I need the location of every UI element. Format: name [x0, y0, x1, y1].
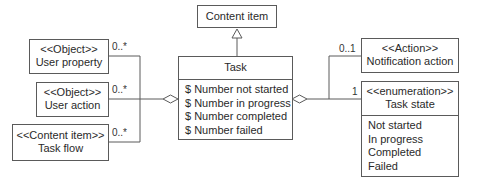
aggregation-diamond-right-icon: [292, 95, 307, 103]
class-content-item: Content item: [197, 5, 277, 28]
class-name: Content item: [198, 6, 276, 27]
stereotype: <<Object>>: [30, 43, 108, 56]
attribute: $ Number not started: [185, 83, 292, 97]
class-notification-action: <<Action>> Notification action: [361, 38, 459, 73]
multiplicity-user-action: 0..*: [112, 84, 127, 95]
multiplicity-task-state: 1: [352, 86, 358, 97]
stereotype: <<Content item>>: [13, 129, 108, 142]
class-name: Notification action: [362, 55, 458, 68]
multiplicity-user-property: 0..*: [112, 41, 127, 52]
aggregation-diamond-left-icon: [163, 95, 178, 103]
enum-value: Completed: [368, 146, 458, 160]
class-task: Task $ Number not started $ Number in pr…: [178, 56, 293, 140]
class-name: Task state: [362, 98, 458, 111]
stereotype: <<enumeration>>: [362, 85, 458, 98]
multiplicity-notification-action: 0..1: [339, 43, 356, 54]
class-name: User property: [30, 56, 108, 69]
generalization-arrow-icon: [232, 29, 242, 38]
class-name: User action: [37, 99, 108, 112]
class-task-state: <<enumeration>> Task state Not started I…: [361, 81, 459, 177]
stereotype: <<Object>>: [37, 86, 108, 99]
class-task-flow: <<Content item>> Task flow: [12, 124, 109, 161]
enum-value: In progress: [368, 133, 458, 147]
enum-value: Failed: [368, 160, 458, 174]
attribute: $ Number completed: [185, 110, 292, 124]
enum-value: Not started: [368, 119, 458, 133]
attribute: $ Number failed: [185, 124, 292, 138]
class-name: Task: [179, 57, 292, 79]
class-name: Task flow: [13, 142, 108, 155]
attribute: $ Number in progress: [185, 97, 292, 111]
class-user-property: <<Object>> User property: [29, 39, 109, 74]
class-user-action: <<Object>> User action: [36, 82, 109, 117]
stereotype: <<Action>>: [362, 42, 458, 55]
multiplicity-task-flow: 0..*: [112, 127, 127, 138]
